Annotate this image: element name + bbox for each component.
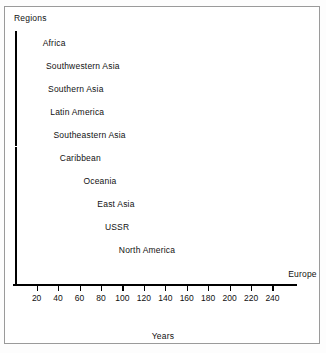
x-axis-line	[13, 284, 297, 285]
bar-label: East Asia	[97, 199, 134, 209]
bar-row: Oceania	[15, 170, 78, 193]
bar-label: Latin America	[50, 107, 104, 117]
x-tick	[230, 286, 231, 291]
bar-row: USSR	[15, 216, 100, 239]
x-tick	[208, 286, 209, 291]
bar-row: Europe	[15, 262, 283, 285]
bar-label: Southeastern Asia	[53, 130, 125, 140]
x-tick	[165, 286, 166, 291]
bar	[15, 100, 17, 123]
plot-area: AfricaSouthwestern AsiaSouthern AsiaLati…	[0, 0, 326, 353]
bar	[15, 170, 17, 193]
bar	[15, 239, 17, 262]
bar	[15, 147, 17, 170]
bar-row: Southern Asia	[15, 77, 43, 100]
bar-row: North America	[15, 239, 114, 262]
bar	[15, 123, 17, 146]
bar-row: Southwestern Asia	[15, 54, 41, 77]
bar	[15, 54, 17, 77]
bar	[15, 216, 17, 239]
bar	[15, 77, 17, 100]
bar-label: Southern Asia	[48, 84, 104, 94]
bar-label: Africa	[43, 38, 66, 48]
bar-label: Oceania	[83, 176, 116, 186]
x-tick	[80, 286, 81, 291]
x-tick	[144, 286, 145, 291]
chart-figure: Regions Years AfricaSouthwestern AsiaSou…	[0, 0, 326, 353]
x-tick	[251, 286, 252, 291]
x-tick	[122, 286, 123, 291]
bar-row: Africa	[15, 31, 38, 54]
x-tick	[58, 286, 59, 291]
bar	[15, 193, 17, 216]
x-tick-label: 240	[257, 293, 287, 303]
x-tick	[272, 286, 273, 291]
bar	[15, 31, 17, 54]
x-tick	[37, 286, 38, 291]
bar-row: Latin America	[15, 100, 45, 123]
x-tick	[101, 286, 102, 291]
x-tick	[187, 286, 188, 291]
bar-label: Europe	[288, 269, 317, 279]
bar-row: Caribbean	[15, 147, 55, 170]
bar	[15, 262, 17, 285]
bar-row: East Asia	[15, 193, 92, 216]
bar-label: Southwestern Asia	[46, 61, 120, 71]
bar-label: Caribbean	[60, 153, 101, 163]
bar-row: Southeastern Asia	[15, 123, 48, 146]
bar-label: North America	[119, 245, 175, 255]
bar-label: USSR	[105, 222, 129, 232]
